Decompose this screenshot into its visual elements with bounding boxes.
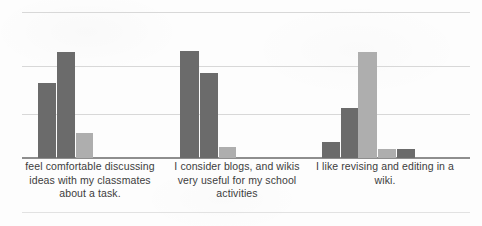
bar-group-1-series-2 bbox=[219, 147, 236, 158]
bar-group-2-series-2 bbox=[358, 52, 377, 158]
bottom-rule bbox=[22, 212, 470, 213]
x-axis-labels: feel comfortable discussing ideas with m… bbox=[0, 160, 482, 208]
bar-group-1-series-0 bbox=[180, 51, 199, 158]
x-tick-label-0: feel comfortable discussing ideas with m… bbox=[16, 160, 164, 201]
bar-group-1-series-1 bbox=[200, 73, 218, 158]
bar-group-0-series-1 bbox=[57, 52, 75, 158]
bar-group-0-series-0 bbox=[38, 83, 56, 158]
bar-chart-figure: feel comfortable discussing ideas with m… bbox=[0, 0, 482, 226]
bar-group-2-series-3 bbox=[378, 149, 396, 158]
gridline-middle bbox=[22, 66, 470, 67]
x-tick-label-2: I like revising and editing in a wiki. bbox=[305, 160, 465, 187]
bar-group-0-series-2 bbox=[76, 133, 93, 158]
bar-group-2-series-1 bbox=[341, 108, 358, 158]
gridline-top bbox=[22, 12, 470, 13]
plot-area bbox=[0, 0, 482, 160]
bar-group-2-series-4 bbox=[397, 149, 415, 158]
bar-group-2-series-0 bbox=[322, 142, 340, 158]
x-tick-label-1: I consider blogs, and wikis very useful … bbox=[163, 160, 311, 201]
gridline-lower bbox=[22, 114, 470, 115]
